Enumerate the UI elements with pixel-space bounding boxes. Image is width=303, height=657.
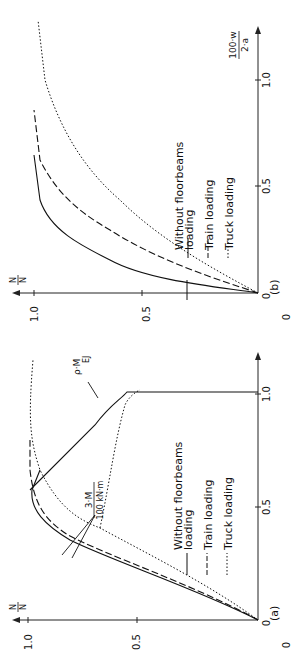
annotation-3m: 3·M 100 kN·m (84, 480, 105, 519)
svg-text:loading: loading (183, 209, 196, 250)
y-axis-arrow-icon (12, 617, 20, 623)
curve-a-rho-solid (30, 392, 258, 490)
x-axis-arrow-icon (255, 352, 261, 360)
annotation-rho: ρ·M EJ (72, 356, 91, 375)
svg-text:0: 0 (281, 314, 292, 320)
svg-text:EJ: EJ (82, 356, 91, 363)
svg-text:100 kN·m: 100 kN·m (96, 480, 105, 519)
curve-b-truck (38, 20, 258, 293)
rotated-figure: Without floorbeams loading Train loading… (0, 0, 303, 657)
svg-text:2·a: 2·a (240, 38, 250, 52)
svg-text:1.0: 1.0 (29, 306, 40, 322)
svg-text:0: 0 (281, 642, 292, 648)
y-axis-arrow-icon (12, 290, 20, 296)
svg-text:Truck loading: Truck loading (223, 177, 236, 251)
panel-b: Without floorbeams loading Train loading… (9, 20, 292, 322)
panel-label-a: (a) (268, 606, 281, 621)
svg-text:N: N (19, 277, 28, 283)
svg-text:N: N (9, 277, 18, 283)
svg-text:Train loading: Train loading (202, 480, 215, 551)
svg-text:ρ·M: ρ·M (72, 359, 82, 375)
svg-text:0.5: 0.5 (261, 499, 272, 515)
svg-text:1.0: 1.0 (23, 634, 34, 650)
panel-label-b: (b) (268, 279, 281, 295)
x-axis-arrow-icon (255, 26, 261, 34)
svg-text:Truck loading: Truck loading (222, 477, 235, 551)
svg-text:Train loading: Train loading (203, 180, 216, 251)
curve-a-rho-truck (100, 390, 140, 528)
panel-a: 3·M 100 kN·m ρ·M EJ Without floorbeams l… (9, 352, 292, 650)
svg-text:100·w: 100·w (228, 31, 238, 58)
svg-text:1.0: 1.0 (261, 72, 272, 88)
legend-a: Without floorbeams loading Train loading… (172, 441, 235, 551)
svg-text:0.5: 0.5 (141, 306, 152, 322)
svg-text:N: N (9, 604, 18, 610)
svg-text:0.5: 0.5 (131, 634, 142, 650)
x-axis-label-b: 100·w 2·a (228, 31, 250, 59)
svg-text:N: N (19, 604, 28, 610)
y-axis-label-b: N N (9, 275, 28, 285)
svg-text:1.0: 1.0 (261, 386, 272, 402)
y-axis-label-a: N N (9, 602, 28, 612)
svg-text:loading: loading (182, 509, 195, 550)
svg-text:3·M: 3·M (84, 492, 94, 508)
svg-text:0.5: 0.5 (261, 178, 272, 194)
